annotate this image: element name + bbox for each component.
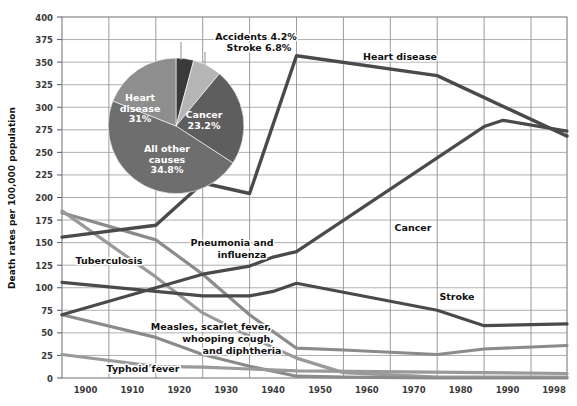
pie-label-heart-line1: Heart bbox=[125, 92, 155, 103]
y-tick-225: 225 bbox=[35, 170, 53, 180]
y-tick-300: 300 bbox=[35, 103, 53, 113]
pie-label-other-line3: 34.8% bbox=[151, 164, 184, 175]
series-label-stroke: Stroke bbox=[439, 291, 474, 302]
x-tick-1910: 1910 bbox=[121, 385, 145, 395]
pie-label-other-line2: causes bbox=[149, 154, 186, 165]
y-tick-200: 200 bbox=[35, 193, 53, 203]
y-tick-50: 50 bbox=[41, 328, 53, 338]
pie-label-all-other-causes: All other causes 34.8% bbox=[144, 143, 190, 175]
y-tick-0: 0 bbox=[47, 374, 53, 384]
chart-figure: Heart disease 31% Cancer 23.2% All other… bbox=[0, 0, 577, 406]
y-tick-125: 125 bbox=[35, 261, 53, 271]
pie-label-stroke: Stroke 6.8% bbox=[227, 42, 292, 53]
series-label-tuberculosis: Tuberculosis bbox=[76, 255, 143, 266]
pie-label-cancer: Cancer 23.2% bbox=[186, 109, 223, 131]
pie-label-other-line1: All other bbox=[144, 143, 190, 154]
series-label-pneumonia-line1: Pneumonia and bbox=[190, 237, 273, 248]
series-label-measles-line2: whooping cough, bbox=[182, 333, 274, 344]
x-tick-1920: 1920 bbox=[167, 385, 191, 395]
y-tick-325: 325 bbox=[35, 80, 53, 90]
x-tick-1998: 1998 bbox=[542, 385, 566, 395]
x-tick-1970: 1970 bbox=[402, 385, 426, 395]
y-tick-25: 25 bbox=[41, 351, 53, 361]
y-tick-100: 100 bbox=[35, 283, 53, 293]
y-tick-175: 175 bbox=[35, 216, 53, 226]
y-tick-375: 375 bbox=[35, 35, 53, 45]
series-label-measles-line1: Measles, scarlet fever, bbox=[151, 321, 271, 332]
x-tick-1940: 1940 bbox=[261, 385, 285, 395]
pie-label-heart-line3: 31% bbox=[129, 113, 152, 124]
x-tick-1950: 1950 bbox=[308, 385, 332, 395]
plot-area: Heart disease 31% Cancer 23.2% All other… bbox=[57, 17, 567, 378]
pie-label-accidents: Accidents 4.2% bbox=[215, 31, 297, 42]
series-label-pneumonia-line2: influenza bbox=[218, 249, 267, 260]
x-tick-1960: 1960 bbox=[355, 385, 379, 395]
series-label-cancer: Cancer bbox=[395, 222, 432, 233]
pie-label-cancer-line2: 23.2% bbox=[188, 120, 221, 131]
y-tick-400: 400 bbox=[35, 13, 53, 23]
pie-label-cancer-line1: Cancer bbox=[186, 109, 223, 120]
series-label-measles-line3: and diphtheria bbox=[202, 345, 281, 356]
y-tick-250: 250 bbox=[35, 148, 53, 158]
y-tick-150: 150 bbox=[35, 238, 53, 248]
pie-label-heart-line2: disease bbox=[120, 103, 161, 114]
x-tick-1900: 1900 bbox=[74, 385, 98, 395]
y-tick-75: 75 bbox=[41, 306, 53, 316]
series-label-heart-disease: Heart disease bbox=[363, 51, 437, 62]
x-tick-1930: 1930 bbox=[214, 385, 238, 395]
chart-svg: Heart disease 31% Cancer 23.2% All other… bbox=[0, 0, 577, 406]
y-tick-350: 350 bbox=[35, 58, 53, 68]
y-axis-title: Death rates per 100,000 population bbox=[7, 107, 17, 289]
x-tick-1990: 1990 bbox=[496, 385, 520, 395]
x-tick-1980: 1980 bbox=[449, 385, 473, 395]
series-label-typhoid-fever: Typhoid fever bbox=[107, 363, 180, 374]
y-tick-275: 275 bbox=[35, 125, 53, 135]
